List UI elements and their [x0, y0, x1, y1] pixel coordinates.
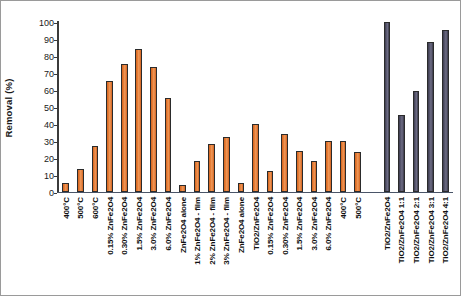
bar-slot — [409, 22, 424, 192]
x-label-slot: 1.5% ZnFe2O4 — [131, 195, 146, 295]
bar-slot — [380, 22, 395, 192]
y-tick-mark — [54, 125, 57, 126]
bar — [223, 137, 230, 191]
x-tick-label: TiO2/ZnFe2O4 2:1 — [412, 197, 421, 263]
y-tick-label: 20 — [44, 154, 54, 163]
x-tick-label: 1.5% ZnFe2O4 — [134, 197, 143, 251]
bar-slot — [117, 22, 132, 192]
x-tick-label: 400°C — [61, 197, 70, 219]
bar — [281, 134, 288, 192]
bar-slot — [146, 22, 161, 192]
x-tick-label: 0.15% ZnFe2O4 — [105, 197, 114, 255]
bar-slot — [321, 22, 336, 192]
y-tick-label: 30 — [44, 137, 54, 146]
x-label-slot: TiO2/ZnFe2O4 2:1 — [409, 195, 424, 295]
y-tick-mark — [54, 108, 57, 109]
x-label-slot: ZnFe2O4 alone — [234, 195, 249, 295]
x-label-slot: TiO2/ZnFe2O4 — [248, 195, 263, 295]
x-tick-label: 3% ZnFe2O4 - film — [222, 197, 231, 265]
bar — [165, 98, 172, 192]
bar — [296, 151, 303, 192]
bar — [179, 185, 186, 192]
x-tick-label: 3.0% ZnFe2O4 — [309, 197, 318, 251]
x-tick-label: 6.0% ZnFe2O4 — [163, 197, 172, 251]
y-tick-label: 10 — [44, 171, 54, 180]
bar — [354, 152, 361, 191]
bar-slot — [307, 22, 322, 192]
x-label-slot: 0.15% ZnFe2O4 — [102, 195, 117, 295]
x-label-slot: 3.0% ZnFe2O4 — [146, 195, 161, 295]
x-axis-labels: 400°C500°C600°C0.15% ZnFe2O40.30% ZnFe2O… — [59, 195, 453, 295]
x-tick-label: 400°C — [339, 197, 348, 219]
bar-slot — [438, 22, 453, 192]
x-tick-label: 500°C — [353, 197, 362, 219]
y-tick-mark — [54, 23, 57, 24]
x-label-slot: TiO2/ZnFe2O4 1:1 — [394, 195, 409, 295]
x-label-slot — [365, 195, 380, 295]
bar — [398, 115, 405, 192]
bar-slot — [277, 22, 292, 192]
y-tick-mark — [54, 40, 57, 41]
x-label-slot: ZnFe2O4 alone — [175, 195, 190, 295]
x-label-slot: 1.5% ZnFe2O4 — [292, 195, 307, 295]
x-label-slot: TiO2/ZnFe2O4 3:1 — [423, 195, 438, 295]
y-tick-label: 90 — [44, 35, 54, 44]
x-tick-label: 6.0% ZnFe2O4 — [324, 197, 333, 251]
x-tick-label: TiO2/ZnFe2O4 1:1 — [397, 197, 406, 263]
x-label-slot: 400°C — [336, 195, 351, 295]
bar — [77, 169, 84, 191]
x-label-slot: 6.0% ZnFe2O4 — [161, 195, 176, 295]
bar — [267, 171, 274, 191]
x-axis-line — [57, 192, 453, 194]
bar — [135, 49, 142, 192]
bar-slot — [204, 22, 219, 192]
x-label-slot: 2% ZnFe2O4 - film — [204, 195, 219, 295]
y-tick-mark — [54, 91, 57, 92]
x-tick-label: 0.30% ZnFe2O4 — [280, 197, 289, 255]
bar — [238, 183, 245, 192]
bar — [150, 67, 157, 191]
bar-slot — [336, 22, 351, 192]
y-tick-label: 60 — [44, 86, 54, 95]
x-tick-label: 1.5% ZnFe2O4 — [295, 197, 304, 251]
bar-slot — [234, 22, 249, 192]
bar — [252, 124, 259, 192]
x-tick-label: 600°C — [90, 197, 99, 219]
bar — [413, 91, 420, 191]
bar — [340, 141, 347, 192]
y-tick-label: 40 — [44, 120, 54, 129]
bar-chart: Removal (%) 1009080706050403020100 400°C… — [0, 0, 461, 296]
y-axis-title: Removal (%) — [3, 53, 17, 163]
bar-slot — [131, 22, 146, 192]
y-tick-mark — [54, 176, 57, 177]
bar — [325, 141, 332, 192]
y-tick-mark — [54, 159, 57, 160]
y-tick-mark — [54, 74, 57, 75]
x-label-slot: 400°C — [59, 195, 74, 295]
bar-slot — [350, 22, 365, 192]
bar-slot — [102, 22, 117, 192]
x-tick-label: TiO2/ZnFe2O4 4:1 — [441, 197, 450, 263]
y-tick-label: 70 — [44, 69, 54, 78]
bar-slot — [394, 22, 409, 192]
bar-slot — [190, 22, 205, 192]
x-tick-label: 0.15% ZnFe2O4 — [266, 197, 275, 255]
y-tick-label: 80 — [44, 52, 54, 61]
bar-slot — [365, 22, 380, 192]
bar — [92, 146, 99, 192]
x-tick-label: 500°C — [76, 197, 85, 219]
bar — [194, 161, 201, 192]
bar — [208, 144, 215, 192]
y-tick-mark — [54, 142, 57, 143]
bar-slot — [263, 22, 278, 192]
x-tick-label: TiO2/ZnFe2O4 3:1 — [426, 197, 435, 263]
bar-slot — [73, 22, 88, 192]
bar-slot — [88, 22, 103, 192]
bar-slot — [175, 22, 190, 192]
bar-slot — [423, 22, 438, 192]
x-label-slot: 0.15% ZnFe2O4 — [263, 195, 278, 295]
bar-slot — [248, 22, 263, 192]
x-label-slot: 3% ZnFe2O4 - film — [219, 195, 234, 295]
bar — [106, 81, 113, 192]
x-label-slot: 1% ZnFe2O4 - film — [190, 195, 205, 295]
